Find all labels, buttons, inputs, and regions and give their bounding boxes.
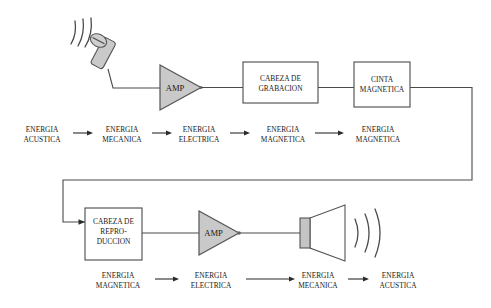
energy-top-2-line2: ELECTRICA [179,135,220,144]
playback-head-input-arrow [79,219,86,224]
energy-bottom-arrow-2 [348,277,369,282]
energy-bottom-arrow-0 [155,277,179,282]
record-head-block: CABEZA DE GRABACION [243,62,318,103]
energy-bottom-arrow-1 [246,277,295,282]
energy-bottom-3-line2: ACUSTICA [380,281,418,290]
magnetic-tape-label-line2: MAGNETICA [360,85,405,94]
microphone-icon [88,31,116,70]
energy-top-4-line2: MAGNETICA [356,135,401,144]
magnetic-tape-block: CINTA MAGNETICA [354,62,410,107]
energy-row-top: ENERGIA ACUSTICA ENERGIA MECANICA ENERGI… [24,125,401,144]
energy-bottom-0-line1: ENERGIA [102,271,135,280]
mic-cable-wire [108,69,160,88]
microphone-sound-waves-icon [71,18,91,47]
energy-bottom-1-line2: ELECTRICA [191,281,232,290]
magnetic-tape-label-line1: CINTA [371,75,394,84]
energy-top-2-line1: ENERGIA [183,125,216,134]
record-head-label-line2: GRABACION [259,84,304,93]
amp-playback-label: AMP [204,228,223,238]
playback-head-label-line2: REPRO- [100,227,127,236]
energy-bottom-1-line1: ENERGIA [195,271,228,280]
energy-top-0-line1: ENERGIA [26,125,59,134]
speaker-icon [300,205,345,261]
energy-top-0-line2: ACUSTICA [24,135,62,144]
record-head-label-line1: CABEZA DE [260,74,301,83]
playback-head-label-line3: DUCCION [97,237,131,246]
energy-bottom-3-line1: ENERGIA [382,271,415,280]
playback-head-block: CABEZA DE REPRO- DUCCION [85,208,142,260]
amp-record-label: AMP [166,83,185,93]
playback-head-label-line1: CABEZA DE [93,217,134,226]
energy-top-1-line1: ENERGIA [106,125,139,134]
amp-record-block: AMP [160,65,201,110]
energy-bottom-0-line2: MAGNETICA [96,281,141,290]
diagram-canvas: AMP CABEZA DE GRABACION CINTA MAGNETICA … [0,0,491,308]
energy-top-arrow-0 [73,131,93,136]
amp-playback-block: AMP [199,211,239,255]
energy-bottom-2-line1: ENERGIA [302,271,335,280]
energy-row-bottom: ENERGIA MAGNETICA ENERGIA ELECTRICA ENER… [96,271,417,290]
energy-top-4-line1: ENERGIA [362,125,395,134]
energy-top-arrow-3 [315,131,344,136]
energy-top-1-line2: MECANICA [102,135,142,144]
energy-top-arrow-1 [152,131,172,136]
speaker-sound-waves-icon [355,209,380,257]
tape-to-playback-head-wire [63,88,472,223]
energy-top-arrow-2 [230,131,250,136]
energy-bottom-2-line2: MECANICA [298,281,338,290]
energy-top-3-line1: ENERGIA [267,125,300,134]
signal-flow-diagram: AMP CABEZA DE GRABACION CINTA MAGNETICA … [0,0,491,308]
energy-top-3-line2: MAGNETICA [261,135,306,144]
